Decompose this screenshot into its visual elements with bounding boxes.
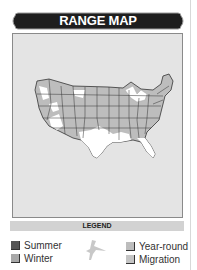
legend-label-year-round: Year-round xyxy=(139,241,188,253)
legend-label-winter: Winter xyxy=(24,253,53,265)
legend-label-summer: Summer xyxy=(24,240,62,252)
migration-swatch xyxy=(126,255,135,264)
range-map-banner: RANGE MAP xyxy=(12,12,184,30)
legend-label-migration: Migration xyxy=(139,254,180,266)
banner-title: RANGE MAP xyxy=(12,12,184,30)
legend-header: LEGEND xyxy=(10,221,184,231)
bird-silhouette-icon xyxy=(82,238,108,262)
page-divider xyxy=(190,0,191,270)
legend-title: LEGEND xyxy=(10,221,184,231)
us-map xyxy=(13,34,184,219)
summer-swatch xyxy=(11,241,20,250)
range-map xyxy=(12,33,183,218)
winter-swatch xyxy=(11,254,20,263)
year-round-swatch xyxy=(126,242,135,251)
